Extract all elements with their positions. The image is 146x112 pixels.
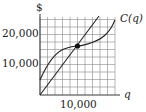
- axes: [40, 14, 120, 95]
- linear-line: [40, 16, 99, 95]
- grid: [40, 17, 115, 95]
- y-axis-label: $: [36, 1, 43, 13]
- y-tick-20000: 20,000: [2, 27, 39, 39]
- y-tick-10000: 10,000: [2, 57, 39, 69]
- x-axis-label: q: [124, 88, 131, 100]
- curve-label: C(q): [120, 12, 143, 24]
- intersection-point: [75, 43, 80, 48]
- x-tick-10000: 10,000: [60, 98, 97, 110]
